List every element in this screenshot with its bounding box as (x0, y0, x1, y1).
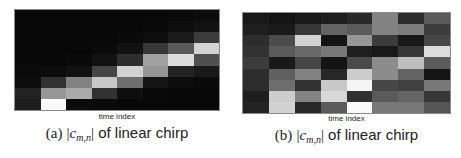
heatmap-cell (398, 69, 424, 80)
caption-a: (a) |cm,n| of linear chirp (14, 124, 220, 143)
heatmap-cell (347, 69, 373, 80)
heatmap-cell (372, 46, 398, 57)
heatmap-cell (92, 66, 118, 77)
heatmap-cell (321, 35, 347, 46)
heatmap-cell (347, 24, 373, 35)
heatmap-cell (243, 46, 269, 57)
heatmap-cell (347, 57, 373, 68)
heatmap-cell (424, 35, 450, 46)
heatmap-cell (424, 69, 450, 80)
heatmap-cell (321, 69, 347, 80)
heatmap-cell (194, 99, 220, 110)
heatmap-cell (398, 102, 424, 113)
heatmap-cell (295, 80, 321, 91)
heatmap-cell (243, 13, 269, 24)
heatmap-cell (424, 24, 450, 35)
heatmap-cell (66, 66, 92, 77)
heatmap-cell (117, 88, 143, 99)
heatmap-cell (194, 21, 220, 32)
heatmap-cell (143, 21, 169, 32)
heatmap-cell (117, 21, 143, 32)
heatmap-cell (41, 77, 67, 88)
heatmap-cell (15, 21, 41, 32)
heatmap-cell (295, 13, 321, 24)
heatmap-cell (92, 32, 118, 43)
heatmap-cell (321, 102, 347, 113)
caption-text-b: of linear chirp (324, 126, 418, 143)
heatmap-cell (347, 46, 373, 57)
heatmap-cell (269, 91, 295, 102)
heatmap-cell (66, 88, 92, 99)
heatmap-cell (347, 102, 373, 113)
heatmap-cell (15, 43, 41, 54)
heatmap-a (14, 9, 220, 111)
heatmap-cell (194, 77, 220, 88)
heatmap-cell (143, 88, 169, 99)
heatmap-cell (117, 99, 143, 110)
heatmap-cell (168, 88, 194, 99)
heatmap-cell (168, 21, 194, 32)
heatmap-cell (347, 35, 373, 46)
heatmap-cell (92, 54, 118, 65)
x-axis-label-b: time index (242, 114, 451, 123)
heatmap-cell (15, 77, 41, 88)
heatmap-cell (398, 46, 424, 57)
heatmap-cell (194, 54, 220, 65)
heatmap-cell (92, 77, 118, 88)
heatmap-cell (398, 91, 424, 102)
heatmap-cell (424, 102, 450, 113)
heatmap-cell (41, 66, 67, 77)
heatmap-cell (194, 66, 220, 77)
heatmap-cell (143, 66, 169, 77)
heatmap-cell (168, 10, 194, 21)
heatmap-cell (269, 57, 295, 68)
heatmap-cell (372, 35, 398, 46)
heatmap-cell (92, 88, 118, 99)
heatmap-cell (424, 13, 450, 24)
heatmap-cell (424, 46, 450, 57)
heatmap-cell (117, 32, 143, 43)
heatmap-cell (41, 43, 67, 54)
heatmap-cell (117, 10, 143, 21)
heatmap-cell (41, 21, 67, 32)
heatmap-cell (194, 88, 220, 99)
heatmap-cell (372, 80, 398, 91)
heatmap-cell (41, 54, 67, 65)
heatmap-cell (15, 10, 41, 21)
heatmap-cell (243, 57, 269, 68)
heatmap-cell (269, 24, 295, 35)
heatmap-cell (15, 54, 41, 65)
heatmap-cell (269, 46, 295, 57)
heatmap-cell (194, 10, 220, 21)
heatmap-cell (15, 66, 41, 77)
heatmap-cell (143, 43, 169, 54)
heatmap-cell (243, 24, 269, 35)
heatmap-cell (398, 13, 424, 24)
heatmap-cell (424, 57, 450, 68)
caption-label-b: (b) (275, 127, 293, 143)
heatmap-cell (41, 10, 67, 21)
heatmap-cell (321, 13, 347, 24)
heatmap-cell (143, 54, 169, 65)
heatmap-cell (243, 91, 269, 102)
heatmap-cell (66, 10, 92, 21)
heatmap-cell (372, 102, 398, 113)
heatmap-cell (66, 43, 92, 54)
heatmap-b (242, 12, 451, 114)
heatmap-cell (194, 43, 220, 54)
heatmap-cell (92, 43, 118, 54)
heatmap-cell (92, 10, 118, 21)
heatmap-cell (295, 35, 321, 46)
heatmap-cell (66, 32, 92, 43)
heatmap-cell (143, 77, 169, 88)
heatmap-cell (92, 99, 118, 110)
heatmap-cell (347, 80, 373, 91)
heatmap-cell (194, 32, 220, 43)
heatmap-cell (15, 32, 41, 43)
heatmap-cell (372, 69, 398, 80)
heatmap-cell (243, 69, 269, 80)
heatmap-cell (168, 77, 194, 88)
caption-text-a: of linear chirp (94, 124, 188, 141)
heatmap-cell (398, 80, 424, 91)
heatmap-cell (321, 24, 347, 35)
